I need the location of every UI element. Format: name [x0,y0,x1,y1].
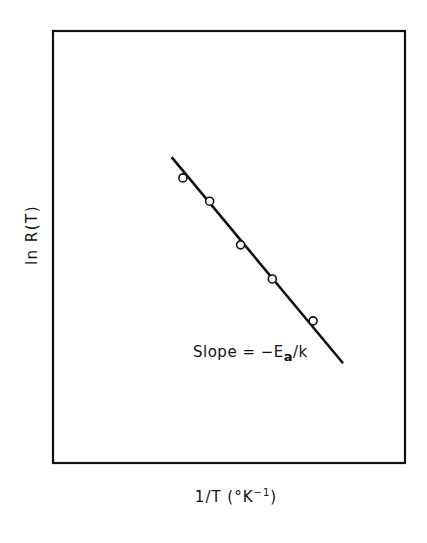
x-axis-label-exponent: −1 [254,487,271,498]
x-axis-label: 1/T (°K−1) [195,487,277,506]
fit-line [172,157,343,363]
slope-subscript: a [284,349,293,364]
data-point-marker [237,241,245,249]
x-axis-label-main: 1/T (°K [195,488,254,506]
y-axis-label: ln R(T) [23,205,41,265]
data-point-marker [206,197,214,205]
x-axis-label-close: ) [270,488,277,506]
plot-frame [53,31,405,463]
slope-prefix: Slope = −E [193,343,284,361]
data-point-marker [268,275,276,283]
slope-suffix: /k [293,343,308,361]
arrhenius-plot [0,0,427,543]
data-point-marker [179,174,187,182]
regression-line [172,157,343,363]
data-point-marker [309,317,317,325]
slope-annotation: Slope = −Ea/k [193,343,308,361]
